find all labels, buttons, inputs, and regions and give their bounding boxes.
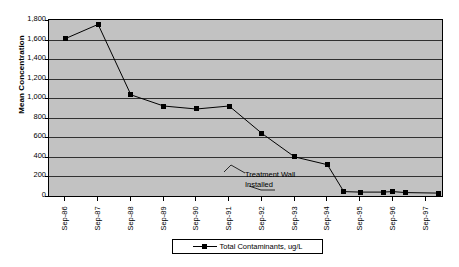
x-axis-tick-label: Sep-90 [191,199,200,239]
chart-legend: Total Contaminants, ug/L [172,239,323,254]
x-axis-tick-label: Sep-86 [60,199,69,239]
y-axis-tick-label: 1,800 [12,15,46,23]
x-axis-tick-label: Sep-89 [158,199,167,239]
x-axis-tick-label: Sep-96 [387,199,396,239]
y-axis-tick-label: 0 [12,191,46,199]
y-axis-tick-labels: 1,8001,6001,4001,2001,0008006004002000 [10,0,46,267]
y-axis-tick-label: 600 [12,132,46,140]
x-axis-tick-label: Sep-92 [256,199,265,239]
chart-figure: Mean Concentration 1,8001,6001,4001,2001… [0,0,459,267]
legend-marker-icon [193,243,217,250]
y-axis-tick-label: 1,400 [12,54,46,62]
x-axis-tick-label: Sep-87 [93,199,102,239]
x-axis-tick-labels: Sep-86Sep-87Sep-88Sep-89Sep-90Sep-91Sep-… [48,200,443,236]
y-axis-tick-label: 200 [12,171,46,179]
annotation-line-1: Treatment Wall [245,170,295,179]
y-axis-tick-label: 400 [12,152,46,160]
x-axis-tick-label: Sep-94 [322,199,331,239]
legend-label: Total Contaminants, ug/L [220,242,303,251]
y-axis-tick-label: 1,200 [12,74,46,82]
y-axis-tick-label: 800 [12,113,46,121]
x-axis-tick-label: Sep-93 [289,199,298,239]
y-axis-tick-label: 1,000 [12,93,46,101]
plot-area: Treatment Wall Installed [48,19,443,197]
x-axis-tick-label: Sep-88 [125,199,134,239]
x-axis-tick-label: Sep-95 [355,199,364,239]
x-axis-tick-label: Sep-97 [420,199,429,239]
annotation-line-2: Installed [245,180,273,189]
y-axis-tick-label: 1,600 [12,35,46,43]
x-axis-tick-label: Sep-91 [224,199,233,239]
